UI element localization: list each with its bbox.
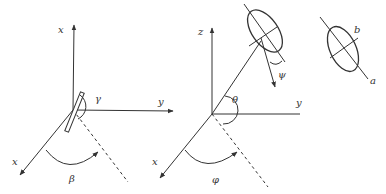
beta-arc bbox=[46, 150, 98, 165]
label-x-diag: x bbox=[12, 156, 18, 167]
label-phi: φ bbox=[212, 174, 219, 185]
label-gamma: γ bbox=[95, 93, 101, 104]
projection-dashed-line-2 bbox=[212, 114, 268, 187]
label-psi: ψ bbox=[278, 69, 286, 80]
rod bbox=[65, 92, 84, 132]
x-axis-diagonal bbox=[20, 110, 73, 175]
label-x-top: x bbox=[58, 24, 64, 35]
label-y-2: y bbox=[295, 97, 302, 108]
psi-arc bbox=[270, 61, 282, 64]
label-a: a bbox=[370, 75, 376, 86]
phi-arc bbox=[185, 150, 237, 164]
diagram-canvas: x y x γ β z y x θ φ ψ b a bbox=[0, 0, 386, 194]
panel-3-ellipse-axes bbox=[320, 17, 368, 79]
label-x-2: x bbox=[152, 156, 158, 167]
label-b: b bbox=[354, 24, 360, 35]
x-axis-2 bbox=[160, 114, 212, 178]
label-beta: β bbox=[68, 173, 75, 184]
panel-2-disk-orientation bbox=[160, 4, 300, 187]
label-z: z bbox=[197, 26, 204, 37]
projection-dashed-line bbox=[73, 110, 128, 182]
label-theta: θ bbox=[232, 94, 238, 105]
y-axis bbox=[73, 110, 173, 111]
disk-ellipse bbox=[241, 4, 290, 58]
minor-axis-line bbox=[330, 38, 358, 58]
label-y: y bbox=[157, 96, 164, 107]
x-axis-vertical bbox=[73, 25, 74, 110]
